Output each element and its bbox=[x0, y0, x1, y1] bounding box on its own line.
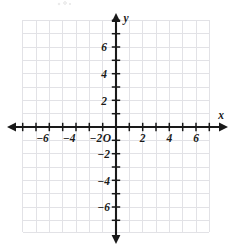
page-artifact-smudge bbox=[56, 1, 74, 7]
y-tick-label-2: 2 bbox=[100, 95, 107, 107]
x-tick-label-neg6: −6 bbox=[36, 132, 49, 144]
y-tick-label-4: 4 bbox=[100, 68, 107, 80]
y-tick-label-neg6: −6 bbox=[97, 201, 110, 213]
x-tick-label-6: 6 bbox=[193, 132, 199, 144]
y-axis-arrow-down bbox=[112, 235, 121, 244]
origin-label: O bbox=[103, 132, 111, 144]
coordinate-plane-figure: −6 −4 −2 2 4 6 6 4 2 −2 −4 −6 O x y bbox=[0, 0, 234, 247]
y-tick-label-6: 6 bbox=[101, 41, 107, 53]
x-axis-arrow-right bbox=[219, 123, 228, 132]
x-axis-arrow-left bbox=[7, 123, 16, 132]
x-tick-label-4: 4 bbox=[165, 132, 172, 144]
y-axis-label: y bbox=[121, 12, 129, 25]
y-tick-label-neg2: −2 bbox=[97, 148, 110, 160]
x-tick-label-2: 2 bbox=[139, 132, 146, 144]
x-tick-label-neg2: −2 bbox=[89, 132, 102, 144]
coordinate-plane-svg: −6 −4 −2 2 4 6 6 4 2 −2 −4 −6 O x y bbox=[0, 0, 234, 247]
x-tick-label-neg4: −4 bbox=[63, 132, 76, 144]
x-tick-labels: −6 −4 −2 2 4 6 bbox=[36, 132, 199, 144]
y-tick-label-neg4: −4 bbox=[97, 175, 110, 187]
x-axis-label: x bbox=[217, 109, 224, 121]
